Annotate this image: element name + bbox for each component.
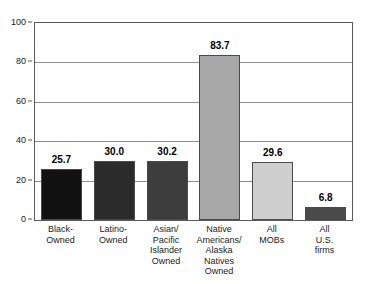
bar xyxy=(252,162,293,220)
bar xyxy=(94,161,135,220)
bar xyxy=(199,55,240,220)
bar-chart: 020406080100 25.730.030.283.729.66.8 Bla… xyxy=(0,0,369,284)
gridline xyxy=(35,141,352,142)
x-axis-category-label: All U.S. firms xyxy=(310,224,338,256)
y-axis-tick-label: 100 xyxy=(11,18,26,27)
x-axis-category-labels: Black- OwnedLatino- OwnedAsian/ Pacific … xyxy=(34,224,353,284)
x-axis-category-label: Asian/ Pacific Islander Owned xyxy=(150,224,182,266)
y-axis-tick-label: 0 xyxy=(21,215,26,224)
y-axis-tick-label: 40 xyxy=(16,136,26,145)
gridline xyxy=(35,62,352,63)
plot-area: 25.730.030.283.729.66.8 xyxy=(34,22,353,221)
bar-value-label: 30.0 xyxy=(105,147,124,157)
y-axis-tick-mark xyxy=(28,140,32,141)
y-axis-tick-mark xyxy=(28,22,32,23)
y-axis-tick-mark xyxy=(28,61,32,62)
bar-value-label: 30.2 xyxy=(157,147,176,157)
y-axis-tick-mark xyxy=(28,219,32,220)
bar xyxy=(305,207,346,220)
bar xyxy=(147,161,188,220)
x-axis-category-label: Black- Owned xyxy=(46,224,75,245)
gridline xyxy=(35,102,352,103)
bar-value-label: 29.6 xyxy=(263,148,282,158)
bar-value-label: 25.7 xyxy=(52,155,71,165)
y-axis-tick-mark xyxy=(28,179,32,180)
x-axis-category-label: All MOBs xyxy=(259,224,284,245)
y-axis-tick-label: 20 xyxy=(16,175,26,184)
gridline xyxy=(35,181,352,182)
bar-value-label: 6.8 xyxy=(319,193,333,203)
x-axis-category-label: Latino- Owned xyxy=(99,224,128,245)
y-axis-tick-label: 80 xyxy=(16,57,26,66)
x-axis-category-label: Native Americans/ Alaska Natives Owned xyxy=(196,224,241,277)
bar xyxy=(41,169,82,220)
y-axis-tick-mark xyxy=(28,100,32,101)
bar-value-label: 83.7 xyxy=(210,41,229,51)
y-axis-tick-label: 60 xyxy=(16,96,26,105)
clipped-title-sliver xyxy=(30,0,230,7)
y-axis: 020406080100 xyxy=(0,22,32,221)
